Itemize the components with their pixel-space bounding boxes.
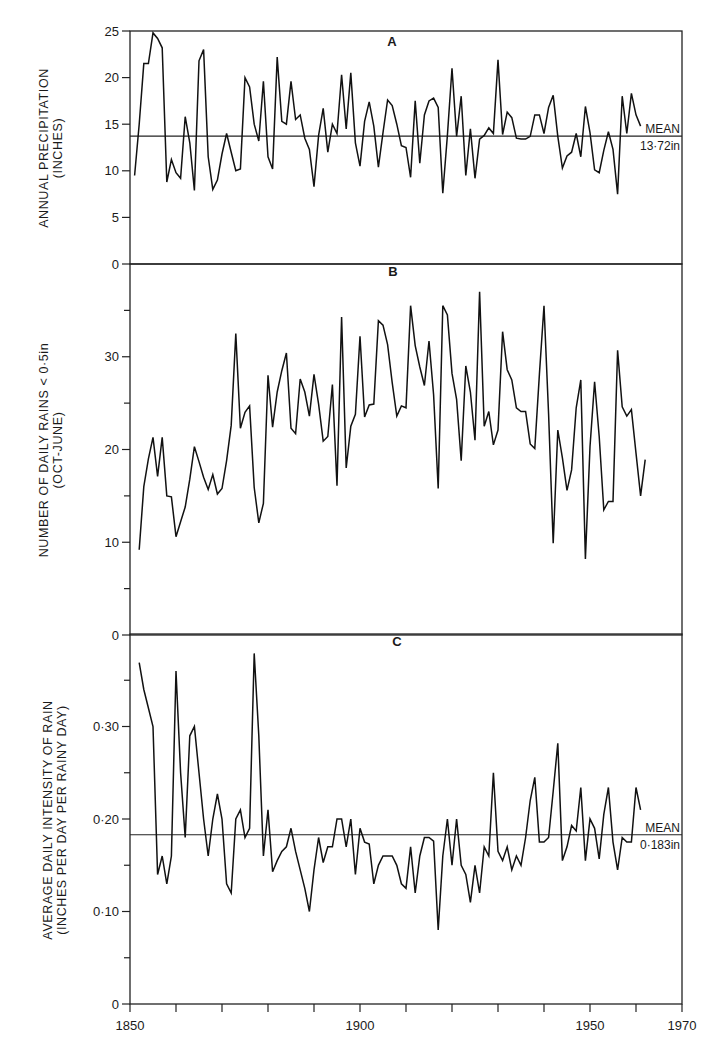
- panel-a-mean-value: 13·72in: [640, 139, 680, 153]
- y-tick-label: 10: [105, 535, 119, 550]
- panel-a-y-title-main: ANNUAL PRECIPITATION: [37, 68, 51, 228]
- y-tick-label: 0: [112, 997, 119, 1012]
- y-tick-label: 0: [112, 628, 119, 643]
- panel-c-rain-intensity-series: [139, 653, 640, 930]
- y-tick-label: 30: [105, 349, 119, 364]
- panel-b-letter: B: [388, 264, 397, 279]
- panel-a-y-title-sub: (INCHES): [51, 118, 65, 178]
- y-tick-label: 10: [105, 163, 119, 178]
- panel-a-precipitation-series: [135, 33, 641, 194]
- panel-c-mean-value: 0·183in: [640, 838, 680, 852]
- panel-c: 00·100·200·30 C MEAN 0·183in AVERAGE DAI…: [41, 634, 682, 1012]
- x-tick-label: 1900: [346, 1018, 375, 1033]
- x-tick-label: 1970: [668, 1018, 697, 1033]
- panel-a-letter: A: [387, 34, 397, 49]
- y-tick-label: 0·20: [93, 812, 119, 827]
- panel-c-y-title-sub: (INCHES PER DAY PER RAINY DAY): [55, 705, 69, 935]
- panel-b: 0102030 B NUMBER OF DAILY RAINS < 0·5in …: [37, 264, 682, 643]
- panel-c-letter: C: [392, 634, 402, 649]
- panel-b-y-title: NUMBER OF DAILY RAINS < 0·5in (OCT-JUNE): [37, 343, 65, 558]
- y-tick-label: 5: [112, 210, 119, 225]
- panel-b-daily-rains-series: [139, 292, 645, 559]
- y-tick-label: 15: [105, 117, 119, 132]
- y-tick-label: 0: [112, 257, 119, 272]
- y-tick-label: 0·10: [93, 904, 119, 919]
- y-tick-label: 0·30: [93, 719, 119, 734]
- panel-a: 0510152025 A MEAN 13·72in ANNUAL PRECIPI…: [37, 24, 682, 272]
- x-tick-label: 1850: [116, 1018, 145, 1033]
- panel-b-frame: [130, 264, 682, 635]
- panel-b-y-title-main: NUMBER OF DAILY RAINS < 0·5in: [37, 343, 51, 558]
- x-tick-label: 1950: [576, 1018, 605, 1033]
- panel-a-y-title: ANNUAL PRECIPITATION (INCHES): [37, 68, 65, 228]
- y-tick-label: 25: [105, 24, 119, 39]
- panel-b-y-axis: 0102030: [105, 310, 130, 642]
- panel-a-y-axis: 0510152025: [105, 24, 130, 272]
- three-panel-time-series-figure: 0510152025 A MEAN 13·72in ANNUAL PRECIPI…: [0, 0, 707, 1051]
- panel-c-y-title-main: AVERAGE DAILY INTENSITY OF RAIN: [41, 700, 55, 939]
- panel-c-y-title: AVERAGE DAILY INTENSITY OF RAIN (INCHES …: [41, 700, 69, 939]
- panel-a-mean-label: MEAN: [645, 122, 680, 136]
- panel-b-y-title-sub: (OCT-JUNE): [51, 412, 65, 489]
- panel-c-mean-label: MEAN: [645, 821, 680, 835]
- x-axis-years: 1850190019501970: [116, 1004, 697, 1033]
- y-tick-label: 20: [105, 70, 119, 85]
- panel-c-y-axis: 00·100·200·30: [93, 680, 130, 1011]
- y-tick-label: 20: [105, 442, 119, 457]
